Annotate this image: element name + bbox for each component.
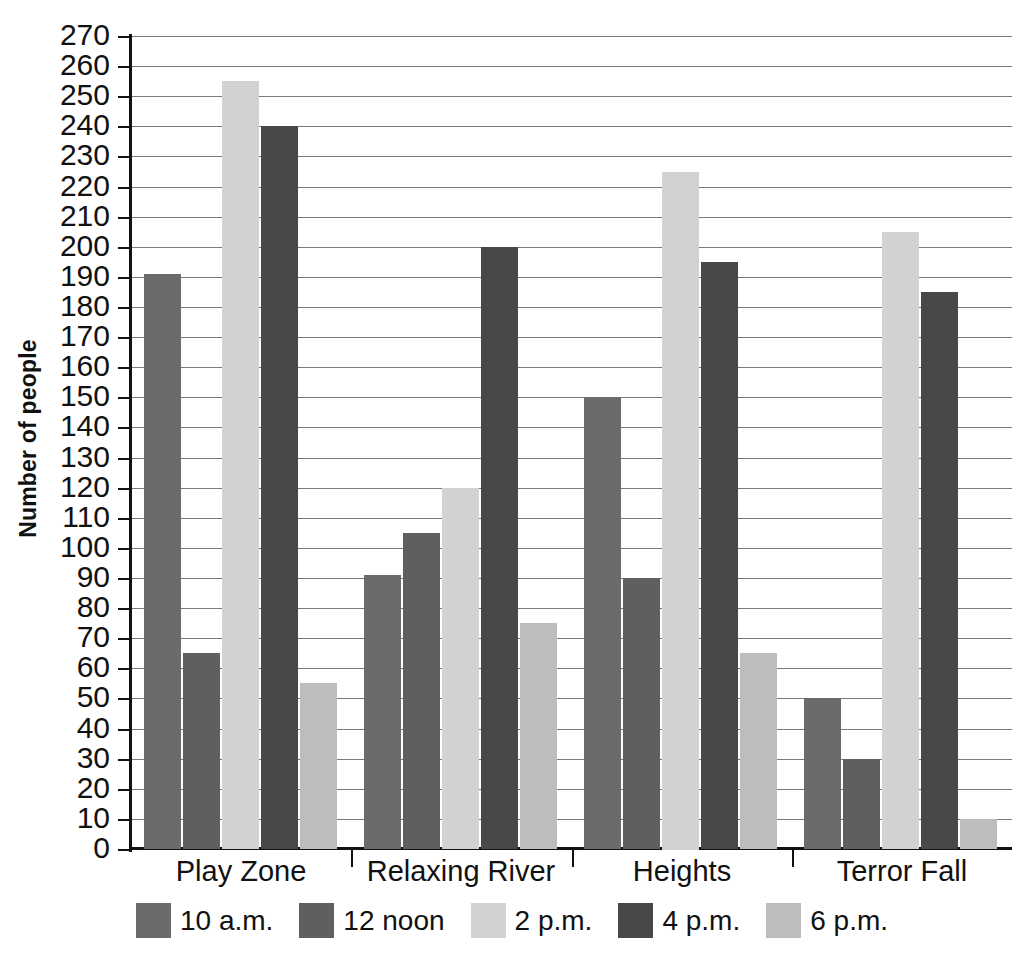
legend-item[interactable]: 10 a.m. bbox=[136, 903, 273, 938]
bar bbox=[662, 172, 699, 850]
legend-item[interactable]: 6 p.m. bbox=[766, 903, 888, 938]
category-label-play-zone: Play Zone bbox=[176, 857, 307, 886]
y-axis-tick-label: 260 bbox=[0, 50, 110, 80]
y-axis-tick-label: 270 bbox=[0, 20, 110, 50]
category-separator bbox=[792, 850, 794, 867]
legend-label: 6 p.m. bbox=[810, 907, 888, 935]
bar bbox=[481, 247, 518, 849]
bar bbox=[442, 488, 479, 849]
category-separator bbox=[572, 850, 574, 867]
bar bbox=[584, 397, 621, 849]
legend-swatch-icon bbox=[766, 903, 801, 938]
gridline bbox=[131, 96, 1012, 97]
bar bbox=[701, 262, 738, 849]
bar bbox=[623, 578, 660, 849]
y-axis-tick-label: 190 bbox=[0, 261, 110, 291]
y-axis-tick-label: 0 bbox=[0, 833, 110, 863]
y-axis-tick-label: 200 bbox=[0, 231, 110, 261]
legend-swatch-icon bbox=[618, 903, 653, 938]
y-axis-tick-label: 110 bbox=[0, 502, 110, 532]
legend-item[interactable]: 12 noon bbox=[299, 903, 444, 938]
legend-swatch-icon bbox=[471, 903, 506, 938]
y-axis-tick-label: 240 bbox=[0, 110, 110, 140]
bar bbox=[520, 623, 557, 849]
y-axis-tick-label: 70 bbox=[0, 622, 110, 652]
y-axis-tick-label: 120 bbox=[0, 472, 110, 502]
y-axis-tick-label: 40 bbox=[0, 713, 110, 743]
bar bbox=[300, 683, 337, 849]
legend-item[interactable]: 4 p.m. bbox=[618, 903, 740, 938]
y-axis-tick-label: 180 bbox=[0, 291, 110, 321]
bar bbox=[843, 759, 880, 849]
y-axis-tick-label: 220 bbox=[0, 171, 110, 201]
bar bbox=[960, 819, 997, 849]
y-axis-tick-label: 170 bbox=[0, 321, 110, 351]
legend-label: 10 a.m. bbox=[180, 907, 273, 935]
y-axis-tick-label: 80 bbox=[0, 592, 110, 622]
bar bbox=[364, 575, 401, 849]
gridline bbox=[131, 66, 1012, 67]
legend-label: 12 noon bbox=[343, 907, 444, 935]
y-axis-tick-label: 210 bbox=[0, 201, 110, 231]
y-axis-tick-label: 30 bbox=[0, 743, 110, 773]
category-label-heights: Heights bbox=[633, 857, 731, 886]
y-axis-tick-label: 150 bbox=[0, 381, 110, 411]
y-axis-line bbox=[129, 34, 132, 852]
bar bbox=[403, 533, 440, 849]
bar-chart: Number of people 01020304050607080901001… bbox=[0, 0, 1024, 963]
category-label-terror-fall: Terror Fall bbox=[837, 857, 968, 886]
y-axis-tick-label: 10 bbox=[0, 803, 110, 833]
category-separator bbox=[351, 850, 353, 867]
bar bbox=[222, 81, 259, 849]
bar bbox=[144, 274, 181, 849]
y-axis-tick-label: 140 bbox=[0, 411, 110, 441]
y-axis-tick-label: 60 bbox=[0, 652, 110, 682]
bar bbox=[921, 292, 958, 849]
legend-swatch-icon bbox=[136, 903, 171, 938]
y-axis-tick-label: 230 bbox=[0, 140, 110, 170]
y-axis-tick-label: 130 bbox=[0, 442, 110, 472]
y-axis-tick-label: 250 bbox=[0, 80, 110, 110]
legend-item[interactable]: 2 p.m. bbox=[471, 903, 593, 938]
gridline bbox=[131, 36, 1012, 37]
y-axis-tick-label: 90 bbox=[0, 562, 110, 592]
chart-legend: 10 a.m.12 noon2 p.m.4 p.m.6 p.m. bbox=[0, 903, 1024, 938]
legend-label: 4 p.m. bbox=[662, 907, 740, 935]
y-axis-tick-label: 160 bbox=[0, 351, 110, 381]
legend-swatch-icon bbox=[299, 903, 334, 938]
bar bbox=[804, 698, 841, 849]
legend-label: 2 p.m. bbox=[515, 907, 593, 935]
y-axis-tick-label: 100 bbox=[0, 532, 110, 562]
y-axis-tick-label: 20 bbox=[0, 773, 110, 803]
bar bbox=[261, 126, 298, 849]
bar bbox=[740, 653, 777, 849]
bar bbox=[183, 653, 220, 849]
category-label-relaxing-river: Relaxing River bbox=[367, 857, 556, 886]
y-axis-tick-label: 50 bbox=[0, 682, 110, 712]
bar bbox=[882, 232, 919, 849]
